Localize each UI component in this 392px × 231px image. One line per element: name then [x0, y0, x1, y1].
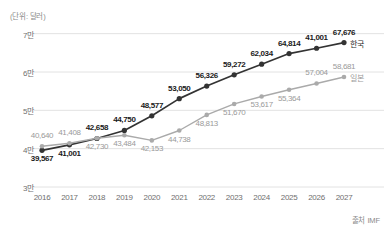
series-name-korea: 한국 — [350, 38, 363, 49]
point-label-japan-2025: 55,364 — [268, 94, 310, 103]
data-point-marker — [67, 141, 72, 146]
data-point-marker — [122, 133, 127, 138]
gdp-per-capita-line-chart: (단위: 달러) 7만6만5만4만3만 20162017201820192020… — [0, 0, 392, 231]
point-label-japan-2022: 48,813 — [186, 119, 228, 128]
data-point-marker — [177, 128, 182, 133]
data-point-marker — [122, 128, 127, 133]
y-tick-6만: 6만 — [8, 67, 34, 78]
x-tick-2026: 2026 — [302, 193, 332, 202]
data-point-marker — [204, 83, 209, 88]
x-tick-2018: 2018 — [82, 193, 112, 202]
x-tick-2017: 2017 — [54, 193, 84, 202]
data-point-marker — [314, 81, 319, 86]
data-point-marker — [232, 72, 237, 77]
x-tick-2025: 2025 — [274, 193, 304, 202]
source-caption: 출처 IMF — [352, 214, 380, 225]
y-tick-7만: 7만 — [8, 29, 34, 40]
point-label-japan-2021: 44,738 — [158, 135, 200, 144]
data-point-marker — [232, 102, 237, 107]
data-point-marker — [314, 46, 319, 51]
series-name-japan: 일본 — [350, 72, 363, 83]
y-tick-4만: 4만 — [8, 144, 34, 155]
data-point-marker — [204, 113, 209, 118]
x-tick-2023: 2023 — [219, 193, 249, 202]
point-label-japan-2020: 42,153 — [131, 144, 173, 153]
data-point-marker — [286, 51, 291, 56]
point-label-korea-2021: 53,050 — [158, 84, 200, 93]
data-point-marker — [341, 40, 346, 45]
data-point-marker — [149, 113, 154, 118]
data-point-marker — [259, 94, 264, 99]
data-point-marker — [177, 96, 182, 101]
x-tick-2027: 2027 — [329, 193, 359, 202]
point-label-korea-2022: 56,326 — [186, 71, 228, 80]
point-label-korea-2020: 48,577 — [131, 101, 173, 110]
point-label-korea-2023: 59,272 — [213, 60, 255, 69]
point-label-japan-2017: 41,408 — [48, 128, 90, 137]
x-tick-2019: 2019 — [109, 193, 139, 202]
x-tick-2021: 2021 — [164, 193, 194, 202]
point-label-korea-2024: 62,034 — [241, 49, 283, 58]
data-point-marker — [95, 136, 100, 141]
x-tick-2022: 2022 — [192, 193, 222, 202]
data-point-marker — [150, 138, 155, 143]
x-tick-2016: 2016 — [27, 193, 57, 202]
x-tick-2020: 2020 — [137, 193, 167, 202]
point-label-korea-2019: 44,750 — [103, 115, 145, 124]
point-label-japan-2027: 58,681 — [323, 62, 365, 71]
data-point-marker — [342, 75, 347, 80]
point-label-korea-2027: 67,676 — [323, 28, 365, 37]
data-point-marker — [40, 144, 45, 149]
data-point-marker — [287, 87, 292, 92]
data-point-marker — [259, 62, 264, 67]
y-tick-5만: 5만 — [8, 105, 34, 116]
x-tick-2024: 2024 — [247, 193, 277, 202]
y-tick-3만: 3만 — [8, 182, 34, 193]
